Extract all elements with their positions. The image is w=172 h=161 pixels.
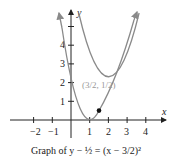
x-tick-label: 1	[87, 126, 92, 137]
x-tick-label: 3	[124, 126, 129, 137]
parabola-curve	[79, 13, 139, 77]
y-tick-label: 3	[60, 58, 65, 69]
x-tick-label: −1	[48, 126, 59, 137]
parabola-chart: −2 −1 1 2 3 4 1 2 3 4 x y (3/2, 1/2)	[0, 0, 172, 161]
x-axis-label: x	[161, 106, 167, 117]
x-tick-label: 2	[106, 126, 111, 137]
vertex-point	[97, 108, 102, 113]
vertex-label: (3/2, 1/2)	[82, 80, 116, 90]
y-tick-label: 2	[60, 77, 65, 88]
x-tick-label: 4	[143, 126, 148, 137]
y-tick-label: 1	[60, 96, 65, 107]
chart-caption: Graph of y − ½ = (x − 3/2)²	[0, 145, 172, 156]
x-tick-label: −2	[30, 126, 41, 137]
